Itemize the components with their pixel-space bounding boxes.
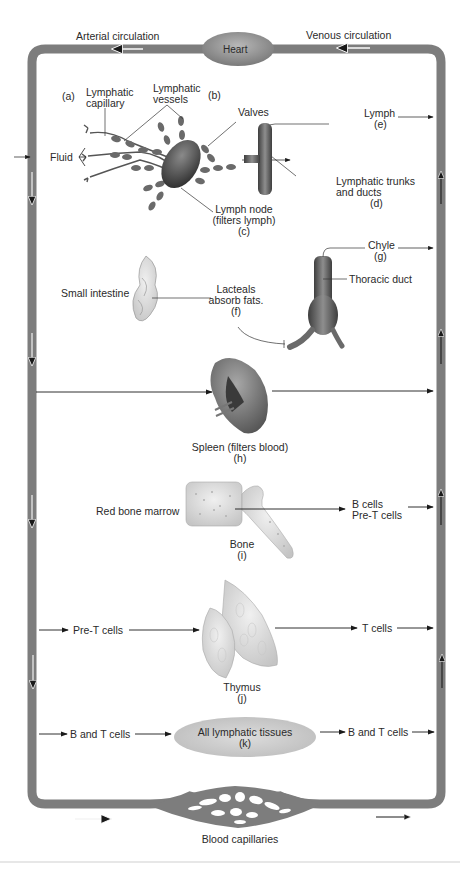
- fluid-label: Fluid: [50, 151, 73, 163]
- thoracic-duct-label: Thoracic duct: [349, 273, 412, 285]
- row-i-arrows: [235, 507, 433, 509]
- venous-circulation-label: Venous circulation: [306, 29, 391, 41]
- chyle-tag: (g): [374, 250, 387, 262]
- bone-tag: (i): [222, 549, 262, 561]
- pre-t-cells-in-label: Pre-T cells: [73, 624, 123, 636]
- lymphatic-vessels-label-2: vessels: [153, 93, 188, 105]
- arterial-circulation-label: Arterial circulation: [76, 30, 159, 42]
- spleen-tag: (h): [180, 452, 300, 464]
- pre-t-cells-out-label: Pre-T cells: [352, 509, 402, 521]
- lymph-tag: (e): [374, 118, 387, 130]
- red-bone-marrow-label: Red bone marrow: [96, 505, 179, 517]
- small-intestine-label: Small intestine: [61, 287, 129, 299]
- b-and-t-cells-in-label: B and T cells: [70, 728, 130, 740]
- thoracic-duct-shape: [290, 256, 342, 347]
- label-b-tag: (b): [208, 89, 221, 101]
- spleen-shape: [211, 358, 268, 434]
- heart-label: Heart: [223, 44, 247, 56]
- valves-label: Valves: [238, 106, 269, 118]
- b-and-t-cells-out-label: B and T cells: [348, 726, 408, 738]
- lymphatic-capillary-label-2: capillary: [86, 97, 125, 109]
- lymph-node-tag: (c): [204, 225, 284, 237]
- small-intestine-shape: [133, 256, 158, 321]
- lymphatic-trunks-tag: (d): [370, 197, 383, 209]
- lymphatic-trunk-shape: [244, 123, 272, 195]
- blood-capillaries-network: [150, 786, 320, 828]
- lacteals-tag: (f): [206, 305, 266, 317]
- thymus-shape: [202, 580, 277, 678]
- row-f-leaders: [152, 248, 433, 348]
- thymus-tag: (j): [217, 692, 267, 704]
- label-a-tag: (a): [62, 90, 75, 102]
- all-lymphatic-tissues-tag: (k): [185, 737, 305, 749]
- blood-capillaries-label: Blood capillaries: [185, 833, 295, 845]
- t-cells-label: T cells: [362, 622, 392, 634]
